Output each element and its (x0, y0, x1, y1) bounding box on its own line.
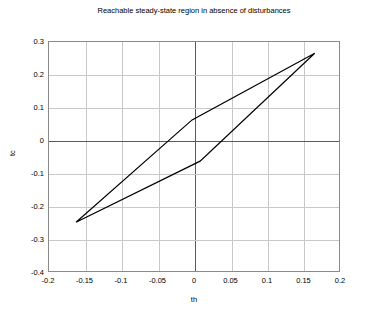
y-axis-label: tc (8, 150, 17, 156)
data-series-layer (49, 42, 341, 273)
reachable-region-polyline (76, 53, 315, 222)
x-tick-label-3: -0.05 (149, 276, 166, 285)
x-tick-label-6: 0.1 (262, 276, 272, 285)
chart-figure: Reachable steady-state region in absence… (0, 0, 367, 317)
y-tick-label-2: -0.2 (20, 202, 44, 211)
y-tick-label-3: -0.1 (20, 169, 44, 178)
x-tick-label-5: 0.05 (223, 276, 238, 285)
y-tick-label-6: 0.2 (20, 70, 44, 79)
x-tick-label-1: -0.15 (76, 276, 93, 285)
x-tick-label-4: 0 (192, 276, 196, 285)
y-tick-label-7: 0.3 (20, 37, 44, 46)
y-tick-label-5: 0.1 (20, 103, 44, 112)
y-tick-label-4: 0 (20, 136, 44, 145)
x-tick-label-0: -0.2 (42, 276, 55, 285)
y-tick-label-1: -0.3 (20, 235, 44, 244)
x-tick-label-2: -0.1 (115, 276, 128, 285)
x-tick-label-7: 0.15 (296, 276, 311, 285)
plot-area (48, 41, 340, 272)
x-tick-label-8: 0.2 (335, 276, 345, 285)
chart-title: Reachable steady-state region in absence… (48, 6, 340, 16)
y-tick-label-0: -0.4 (20, 268, 44, 277)
x-axis-label: th (48, 295, 340, 304)
